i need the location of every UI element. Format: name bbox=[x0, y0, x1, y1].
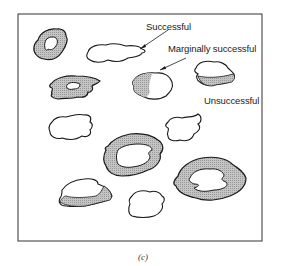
label-successful: Successful bbox=[146, 21, 191, 32]
blob-unsuccessful-2 bbox=[50, 76, 100, 99]
figure-caption: (c) bbox=[138, 252, 148, 262]
blob-unsuccessful-3 bbox=[104, 134, 163, 176]
blob-marginal-3 bbox=[59, 179, 112, 207]
label-marginally-successful: Marginally successful bbox=[168, 43, 256, 54]
blob-marginal-1 bbox=[133, 73, 173, 99]
arrow-successful bbox=[140, 30, 168, 49]
blob-marginal-2 bbox=[195, 61, 235, 86]
arrow-marginally-successful bbox=[160, 58, 186, 70]
diagram-canvas bbox=[0, 0, 288, 266]
blob-successful-3 bbox=[166, 114, 201, 141]
blob-successful-2 bbox=[49, 114, 92, 139]
blob-successful-1 bbox=[87, 44, 145, 62]
blob-unsuccessful-4 bbox=[174, 157, 246, 200]
blob-successful-4 bbox=[129, 191, 165, 218]
label-unsuccessful: Unsuccessful bbox=[204, 95, 259, 106]
blob-unsuccessful-1 bbox=[34, 29, 67, 60]
